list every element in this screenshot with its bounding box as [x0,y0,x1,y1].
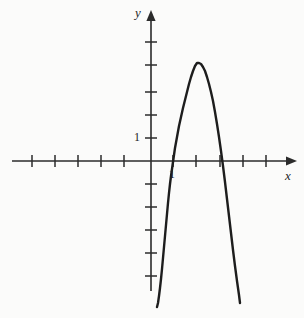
x-axis-tick-label-one: 1 [169,168,175,180]
function-graph-figure: y x 1 1 [0,0,304,318]
plot-canvas [0,0,304,318]
parabola-polyline [157,63,240,307]
x-axis-arrowhead [286,156,297,165]
x-axis-label: x [285,169,291,182]
y-axis-label: y [135,6,141,19]
axes-group [12,10,297,291]
parabola-curve [157,63,240,307]
y-axis-tick-label-one: 1 [134,131,140,143]
y-axis-arrowhead [146,10,155,21]
